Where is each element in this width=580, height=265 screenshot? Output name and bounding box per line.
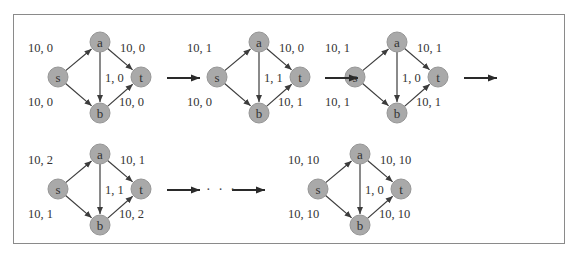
- edge-label-a-t: 10, 1: [417, 41, 442, 55]
- node-a: a: [249, 32, 269, 52]
- edge-s-a: [326, 161, 352, 183]
- flow-graph-step-1: 10, 010, 01, 010, 010, 0sabt: [28, 32, 151, 123]
- node-label: s: [315, 182, 320, 197]
- node-label: b: [357, 218, 364, 233]
- node-t: t: [290, 67, 310, 87]
- node-label: t: [139, 182, 143, 197]
- node-b: b: [387, 103, 407, 123]
- node-s: s: [48, 179, 68, 199]
- edge-label-s-a: 10, 1: [187, 41, 212, 55]
- node-label: t: [399, 182, 403, 197]
- node-b: b: [249, 103, 269, 123]
- node-label: b: [394, 106, 401, 121]
- node-s: s: [48, 67, 68, 87]
- edge-s-a: [66, 161, 92, 183]
- edge-label-b-t: 10, 1: [416, 95, 441, 109]
- flow-graph-step-2: 10, 110, 01, 110, 010, 1sabt: [187, 32, 310, 123]
- node-a: a: [90, 32, 110, 52]
- edge-s-b: [66, 84, 92, 106]
- node-label: t: [298, 70, 302, 85]
- flow-graph-step-4: 10, 210, 11, 110, 110, 2sabt: [28, 144, 151, 235]
- node-s: s: [308, 179, 328, 199]
- edge-label-a-t: 10, 1: [120, 153, 145, 167]
- node-label: a: [394, 35, 400, 50]
- node-label: a: [256, 35, 262, 50]
- edge-label-s-a: 10, 10: [288, 153, 319, 167]
- flow-network-diagram: 10, 010, 01, 010, 010, 0sabt10, 110, 01,…: [0, 0, 580, 265]
- node-label: a: [97, 35, 103, 50]
- edge-s-b: [363, 84, 389, 106]
- node-b: b: [350, 215, 370, 235]
- node-label: s: [55, 182, 60, 197]
- edge-label-b-t: 10, 0: [119, 95, 144, 109]
- edge-label-a-b: 1, 1: [105, 183, 124, 197]
- edge-label-a-b: 1, 0: [402, 71, 421, 85]
- edge-s-b: [326, 196, 352, 218]
- node-a: a: [350, 144, 370, 164]
- edge-label-a-b: 1, 0: [365, 183, 384, 197]
- edge-label-b-t: 10, 10: [379, 207, 410, 221]
- edge-s-b: [225, 84, 251, 106]
- edge-label-s-a: 10, 1: [325, 41, 350, 55]
- node-a: a: [387, 32, 407, 52]
- node-a: a: [90, 144, 110, 164]
- node-b: b: [90, 103, 110, 123]
- node-b: b: [90, 215, 110, 235]
- node-t: t: [131, 67, 151, 87]
- edge-s-a: [363, 49, 389, 71]
- edge-label-a-t: 10, 0: [279, 41, 304, 55]
- node-s: s: [207, 67, 227, 87]
- edge-s-a: [225, 49, 251, 71]
- edge-label-b-t: 10, 1: [278, 95, 303, 109]
- edge-label-s-b: 10, 1: [325, 95, 350, 109]
- edge-label-s-b: 10, 1: [28, 207, 53, 221]
- node-label: b: [97, 106, 104, 121]
- edge-label-s-b: 10, 0: [28, 95, 53, 109]
- node-label: t: [139, 70, 143, 85]
- node-label: s: [214, 70, 219, 85]
- node-t: t: [131, 179, 151, 199]
- edge-label-a-t: 10, 0: [120, 41, 145, 55]
- flow-graph-final: 10, 1010, 101, 010, 1010, 10sabt: [288, 144, 411, 235]
- graphs-layer: 10, 010, 01, 010, 010, 0sabt10, 110, 01,…: [28, 32, 448, 235]
- node-label: t: [436, 70, 440, 85]
- node-label: s: [55, 70, 60, 85]
- node-t: t: [428, 67, 448, 87]
- edge-label-a-b: 1, 1: [264, 71, 283, 85]
- edge-label-s-a: 10, 2: [28, 153, 53, 167]
- edge-label-a-t: 10, 10: [380, 153, 411, 167]
- edge-s-a: [66, 49, 92, 71]
- edge-label-s-b: 10, 10: [288, 207, 319, 221]
- ellipsis: · · ·: [206, 182, 237, 197]
- edge-label-b-t: 10, 2: [119, 207, 144, 221]
- node-label: b: [97, 218, 104, 233]
- edge-label-s-b: 10, 0: [187, 95, 212, 109]
- node-label: b: [256, 106, 263, 121]
- edge-s-b: [66, 196, 92, 218]
- edge-label-s-a: 10, 0: [28, 41, 53, 55]
- edge-label-a-b: 1, 0: [105, 71, 124, 85]
- node-t: t: [391, 179, 411, 199]
- node-label: a: [357, 147, 363, 162]
- node-label: a: [97, 147, 103, 162]
